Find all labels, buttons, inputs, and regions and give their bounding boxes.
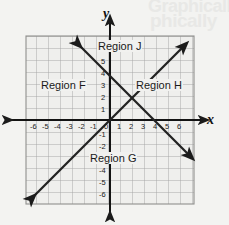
x-tick-5: 5 (165, 122, 169, 131)
x-tick-2: 2 (129, 122, 133, 131)
y-tick-4: 4 (101, 69, 105, 78)
region-label-f: Region F (40, 79, 87, 91)
x-tick--2: -2 (78, 122, 85, 131)
coordinate-plane-figure (0, 0, 229, 225)
x-tick-6: 6 (177, 122, 181, 131)
region-label-g: Region G (89, 152, 137, 164)
x-axis-label: x (207, 112, 214, 128)
x-tick--6: -6 (30, 122, 37, 131)
y-tick-2: 2 (101, 93, 105, 102)
x-tick--3: -3 (66, 122, 73, 131)
x-tick--1: -1 (90, 122, 97, 131)
y-tick--6: -6 (99, 190, 106, 199)
x-tick-1: 1 (117, 122, 121, 131)
x-tick--5: -5 (42, 122, 49, 131)
y-axis-label: y (103, 6, 109, 22)
y-tick--5: -5 (99, 178, 106, 187)
region-label-j: Region J (97, 40, 142, 52)
x-tick-3: 3 (141, 122, 145, 131)
y-tick-5: 5 (101, 57, 105, 66)
y-tick--1: -1 (99, 130, 106, 139)
x-tick--4: -4 (54, 122, 61, 131)
y-tick--4: -4 (99, 166, 106, 175)
y-tick-3: 3 (101, 81, 105, 90)
x-tick-4: 4 (153, 122, 157, 131)
region-label-h: Region H (135, 79, 183, 91)
y-tick--2: -2 (99, 142, 106, 151)
y-tick-1: 1 (101, 105, 105, 114)
